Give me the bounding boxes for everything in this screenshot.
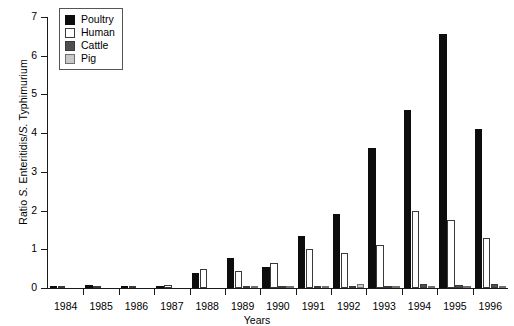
legend-label-poultry: Poultry	[81, 14, 114, 25]
y-tick-label: 4	[20, 127, 37, 137]
bar-cattle-1991	[314, 286, 321, 288]
legend-label-human: Human	[81, 27, 115, 38]
y-axis-line	[47, 17, 48, 289]
bar-poultry-1986	[121, 286, 128, 288]
y-tick-label: 1	[20, 243, 37, 253]
x-tick-label: 1991	[293, 300, 333, 312]
bar-cattle-1989	[243, 286, 250, 288]
bar-pig-1995	[463, 286, 470, 288]
bar-cattle-1996	[491, 284, 498, 288]
chart-container: Ratio S. Enteritidis/S. Typhimurium 0123…	[0, 0, 514, 326]
x-tick-label: 1994	[400, 300, 440, 312]
y-tick-mark	[41, 211, 47, 212]
y-tick-mark	[41, 94, 47, 95]
x-axis-title: Years	[0, 314, 514, 326]
bar-poultry-1994	[404, 110, 411, 288]
x-tick-mark	[331, 289, 332, 295]
bar-cattle-1994	[420, 284, 427, 288]
y-tick-mark	[41, 133, 47, 134]
legend-item-pig: Pig	[65, 52, 115, 65]
x-tick-label: 1993	[364, 300, 404, 312]
y-tick-label: 6	[20, 50, 37, 60]
y-tick-label: 2	[20, 205, 37, 215]
human-swatch-icon	[65, 28, 75, 38]
bar-human-1989	[235, 271, 242, 288]
x-tick-label: 1990	[258, 300, 298, 312]
cattle-swatch-icon	[65, 41, 75, 51]
pig-swatch-icon	[65, 54, 75, 64]
bar-pig-1993	[392, 286, 399, 288]
bar-human-1992	[341, 253, 348, 288]
bar-cattle-1990	[278, 286, 285, 288]
x-tick-label: 1986	[116, 300, 156, 312]
x-tick-label: 1989	[223, 300, 263, 312]
x-tick-mark	[473, 289, 474, 295]
x-tick-mark	[225, 289, 226, 295]
bar-poultry-1995	[439, 34, 446, 288]
bar-poultry-1992	[333, 214, 340, 288]
x-tick-mark	[83, 289, 84, 295]
bar-poultry-1984	[50, 286, 57, 288]
bar-cattle-1995	[455, 285, 462, 288]
x-tick-mark	[154, 289, 155, 295]
bar-poultry-1993	[368, 148, 375, 288]
poultry-swatch-icon	[65, 15, 75, 25]
bar-human-1985	[93, 286, 100, 288]
bar-poultry-1988	[192, 273, 199, 288]
x-tick-label: 1996	[470, 300, 510, 312]
y-axis-title-mid: Enteritidis/	[17, 133, 29, 186]
y-tick-mark	[41, 172, 47, 173]
bar-human-1996	[483, 238, 490, 288]
y-tick-label: 5	[20, 88, 37, 98]
y-tick-mark	[41, 56, 47, 57]
x-tick-label: 1992	[329, 300, 369, 312]
x-tick-label: 1995	[435, 300, 475, 312]
bar-human-1993	[376, 245, 383, 288]
y-tick-mark	[41, 17, 47, 18]
bar-human-1987	[164, 285, 171, 288]
x-tick-mark	[119, 289, 120, 295]
bar-human-1995	[447, 220, 454, 288]
legend-label-pig: Pig	[81, 53, 96, 64]
y-tick-mark	[41, 288, 47, 289]
bar-human-1986	[129, 286, 136, 288]
legend-item-cattle: Cattle	[65, 39, 115, 52]
bar-human-1990	[270, 263, 277, 288]
bar-human-1994	[412, 211, 419, 288]
x-tick-mark	[437, 289, 438, 295]
y-tick-mark	[41, 249, 47, 250]
bar-pig-1994	[428, 286, 435, 288]
x-axis-line	[47, 288, 508, 289]
bar-cattle-1993	[384, 286, 391, 288]
legend-item-human: Human	[65, 26, 115, 39]
bar-human-1988	[200, 269, 207, 288]
legend: Poultry Human Cattle Pig	[59, 8, 123, 70]
y-tick-label: 3	[20, 166, 37, 176]
x-tick-mark	[296, 289, 297, 295]
x-tick-mark	[260, 289, 261, 295]
bar-pig-1989	[251, 286, 258, 288]
bar-human-1991	[306, 249, 313, 288]
legend-label-cattle: Cattle	[81, 40, 108, 51]
bar-pig-1996	[499, 286, 506, 288]
y-tick-label: 7	[20, 11, 37, 21]
bar-poultry-1991	[298, 236, 305, 288]
legend-item-poultry: Poultry	[65, 13, 115, 26]
bar-human-1984	[58, 286, 65, 288]
bar-poultry-1987	[156, 286, 163, 288]
bar-pig-1990	[286, 286, 293, 288]
bar-poultry-1996	[475, 129, 482, 288]
x-tick-label: 1988	[187, 300, 227, 312]
bar-pig-1991	[322, 286, 329, 288]
bar-poultry-1985	[85, 285, 92, 288]
x-tick-label: 1985	[81, 300, 121, 312]
y-tick-label: 0	[20, 282, 37, 292]
y-axis-title: Ratio S. Enteritidis/S. Typhimurium	[17, 27, 29, 257]
bar-poultry-1989	[227, 258, 234, 288]
y-axis-title-italic-genus-1: S.	[17, 187, 29, 197]
x-tick-mark	[190, 289, 191, 295]
bar-cattle-1992	[349, 286, 356, 288]
x-tick-mark	[366, 289, 367, 295]
x-tick-mark	[402, 289, 403, 295]
x-tick-label: 1984	[46, 300, 86, 312]
